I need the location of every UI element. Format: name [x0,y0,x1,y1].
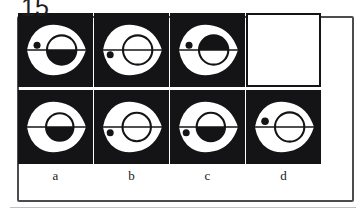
option-label-b: b [94,168,169,183]
matrix-cell-r1c2 [94,13,169,87]
eye-figure-b [96,92,167,162]
option-label-row: a b c d [18,168,321,183]
eye-figure-c [172,92,243,162]
puzzle-page: 15 [0,0,364,216]
answer-option-d[interactable] [246,90,321,164]
eye-figure-r1c1 [20,15,91,85]
eye-figure-r1c3 [172,15,243,85]
matrix-cell-r1c3 [170,13,245,87]
answer-option-c[interactable] [170,90,245,164]
matrix-cell-r1c4-missing [246,13,321,87]
option-label-a: a [18,168,93,183]
eye-figure-r1c2 [96,15,167,85]
matrix-grid [18,13,321,164]
question-number: 15 [21,0,49,20]
answer-option-b[interactable] [94,90,169,164]
matrix-cell-r1c1 [18,13,93,87]
eye-figure-d [248,92,319,162]
page-bottom-rule [10,207,356,208]
answer-option-a[interactable] [18,90,93,164]
eye-figure-a [20,92,91,162]
option-label-c: c [170,168,245,183]
option-label-d: d [246,168,321,183]
empty-answer-slot [248,15,319,85]
